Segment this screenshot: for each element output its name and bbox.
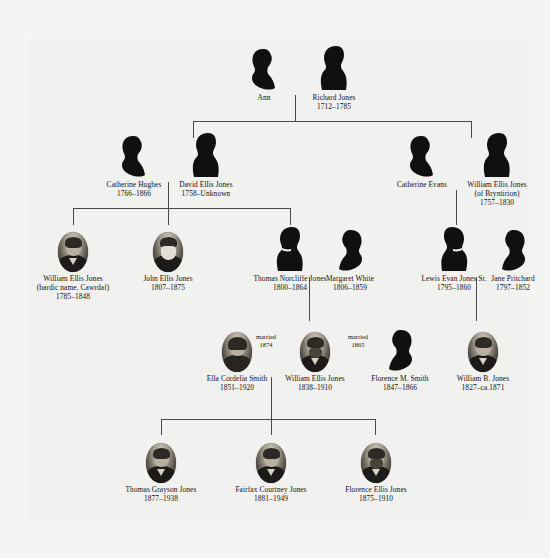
silhouette-female-icon — [336, 228, 364, 272]
person-ann[interactable]: Ann — [233, 45, 295, 102]
caption-catherine-evans: Catherine Evans — [388, 180, 456, 189]
person-john-ellis-jones[interactable]: John Ellis Jones 1807–1875 — [126, 226, 210, 292]
person-name: Catherine Hughes — [100, 180, 168, 189]
figure-thomas-grayson-jones — [112, 437, 210, 483]
person-name: Richard Jones — [296, 93, 372, 102]
portrait-photo — [468, 332, 498, 372]
person-name: Ann — [233, 93, 295, 102]
person-dates: 1838–1910 — [272, 383, 358, 392]
silhouette-female-icon — [120, 134, 148, 178]
person-florence-ellis-jones[interactable]: Florence Ellis Jones 1875–1910 — [330, 437, 422, 503]
person-dates: 1847–1866 — [358, 383, 442, 392]
person-dates: 1785–1848 — [25, 292, 121, 301]
connector-gen2-left-drop-2 — [168, 208, 169, 225]
person-name: William Ellis Jones — [25, 274, 121, 283]
figure-william-b-jones — [440, 326, 526, 372]
person-fairfax-courtney-jones[interactable]: Fairfax Courtney Jones 1881–1949 — [221, 437, 321, 503]
figure-florence-ellis-jones — [330, 437, 422, 483]
caption-florence-ellis-jones: Florence Ellis Jones 1875–1910 — [330, 485, 422, 503]
caption-john-ellis-jones: John Ellis Jones 1807–1875 — [126, 274, 210, 292]
silhouette-female-icon — [386, 328, 414, 372]
figure-catherine-evans — [388, 132, 456, 178]
portrait-photo — [146, 443, 176, 483]
person-dates: 1806–1859 — [310, 283, 390, 292]
person-name: Ella Cordelia Smith — [193, 374, 281, 383]
silhouette-female-icon — [408, 134, 436, 178]
person-name: Jane Pritchard — [478, 274, 548, 283]
person-dates: 1712–1785 — [296, 102, 372, 111]
figure-catherine-hughes — [100, 132, 168, 178]
figure-jane-pritchard — [478, 226, 548, 272]
person-dates: 1851–1920 — [193, 383, 281, 392]
person-name: Fairfax Courtney Jones — [221, 485, 321, 494]
person-dates: 1807–1875 — [126, 283, 210, 292]
portrait-photo — [256, 443, 286, 483]
silhouette-female-icon — [250, 47, 278, 91]
silhouette-male-icon — [275, 226, 305, 272]
connector-gen1-sibling-bar — [193, 121, 472, 122]
silhouette-male-icon — [191, 132, 221, 178]
figure-fairfax-courtney-jones — [221, 437, 321, 483]
caption-ella-cordelia-smith: Ella Cordelia Smith 1851–1920 — [193, 374, 281, 392]
person-name: Florence M. Smith — [358, 374, 442, 383]
marriage-year: 1874 — [260, 341, 273, 348]
connector-gen2-left-drop-1 — [73, 208, 74, 225]
caption-richard-jones: Richard Jones 1712–1785 — [296, 93, 372, 111]
person-jane-pritchard[interactable]: Jane Pritchard 1797–1852 — [478, 226, 548, 292]
caption-william-ellis-jones-1838: William Ellis Jones 1838–1910 — [272, 374, 358, 392]
connector-gen4-sibling-bar — [161, 419, 376, 420]
person-florence-m-smith[interactable]: Florence M. Smith 1847–1866 — [358, 326, 442, 392]
person-dates: 1797–1852 — [478, 283, 548, 292]
person-name: David Ellis Jones — [169, 180, 243, 189]
figure-ann — [233, 45, 295, 91]
connector-gen2-left-drop-3 — [290, 208, 291, 225]
family-tree-chart: Ann Richard Jones 1712–1785 Catherine Hu… — [0, 0, 550, 558]
caption-william-b-jones: William B. Jones 1827–ca.1871 — [440, 374, 526, 392]
figure-william-ellis-jones-bryntirion — [457, 132, 537, 178]
person-william-ellis-jones-cawrdaf[interactable]: William Ellis Jones (bardic name, Cawrda… — [25, 226, 121, 302]
portrait-photo — [153, 232, 183, 272]
figure-william-ellis-jones-cawrdaf — [25, 226, 121, 272]
person-dates: 1875–1910 — [330, 494, 422, 503]
caption-david-ellis-jones: David Ellis Jones 1758–Unknown — [169, 180, 243, 198]
person-catherine-hughes[interactable]: Catherine Hughes 1766–1866 — [100, 132, 168, 198]
person-catherine-evans[interactable]: Catherine Evans — [388, 132, 456, 189]
silhouette-female-icon — [499, 228, 527, 272]
person-william-b-jones[interactable]: William B. Jones 1827–ca.1871 — [440, 326, 526, 392]
person-dates: 1757–1830 — [457, 198, 537, 207]
caption-thomas-grayson-jones: Thomas Grayson Jones 1877–1938 — [112, 485, 210, 503]
person-subtitle: (bardic name, Cawrdaf) — [25, 283, 121, 292]
person-dates: 1881–1949 — [221, 494, 321, 503]
figure-david-ellis-jones — [169, 132, 243, 178]
person-thomas-grayson-jones[interactable]: Thomas Grayson Jones 1877–1938 — [112, 437, 210, 503]
person-richard-jones[interactable]: Richard Jones 1712–1785 — [296, 45, 372, 111]
person-name: William Ellis Jones — [272, 374, 358, 383]
person-william-ellis-jones-bryntirion[interactable]: William Ellis Jones (of Bryntirion) 1757… — [457, 132, 537, 208]
person-name: Thomas Grayson Jones — [112, 485, 210, 494]
caption-ann: Ann — [233, 93, 295, 102]
figure-john-ellis-jones — [126, 226, 210, 272]
caption-william-ellis-jones-bryntirion: William Ellis Jones (of Bryntirion) 1757… — [457, 180, 537, 208]
person-name: Margaret White — [310, 274, 390, 283]
person-david-ellis-jones[interactable]: David Ellis Jones 1758–Unknown — [169, 132, 243, 198]
caption-fairfax-courtney-jones: Fairfax Courtney Jones 1881–1949 — [221, 485, 321, 503]
caption-william-ellis-jones-cawrdaf: William Ellis Jones (bardic name, Cawrda… — [25, 274, 121, 302]
figure-richard-jones — [296, 45, 372, 91]
portrait-photo — [58, 232, 88, 272]
person-dates: 1766–1866 — [100, 189, 168, 198]
person-dates: 1758–Unknown — [169, 189, 243, 198]
person-name: John Ellis Jones — [126, 274, 210, 283]
person-name: William B. Jones — [440, 374, 526, 383]
silhouette-male-icon — [482, 132, 512, 178]
connector-gen4-drop-2 — [271, 419, 272, 435]
figure-florence-m-smith — [358, 326, 442, 372]
person-name: Catherine Evans — [388, 180, 456, 189]
person-name: Florence Ellis Jones — [330, 485, 422, 494]
figure-margaret-white — [310, 226, 390, 272]
silhouette-male-icon — [439, 226, 469, 272]
person-subtitle: (of Bryntirion) — [457, 189, 537, 198]
person-margaret-white[interactable]: Margaret White 1806–1859 — [310, 226, 390, 292]
caption-florence-m-smith: Florence M. Smith 1847–1866 — [358, 374, 442, 392]
caption-margaret-white: Margaret White 1806–1859 — [310, 274, 390, 292]
person-dates: 1877–1938 — [112, 494, 210, 503]
